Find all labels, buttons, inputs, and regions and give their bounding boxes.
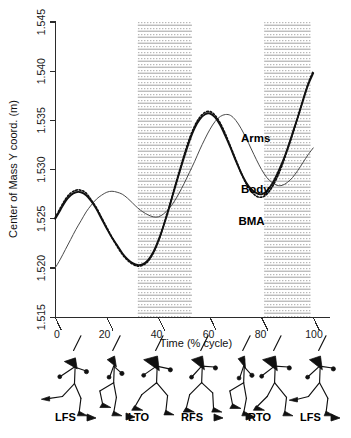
y-ticklabel-1520: 1.520 (35, 255, 47, 281)
x-ticklabel-100: 100 (305, 328, 323, 340)
y-ticks-group: 1.545 1.540 1.535 1.530 1.525 1.520 1.51… (35, 9, 55, 331)
x-ticklabel-80: 80 (255, 328, 267, 340)
y-ticklabel-1545: 1.545 (35, 9, 47, 35)
stick-figure-6 (253, 336, 293, 416)
x-ticklabel-0: 0 (54, 328, 60, 340)
stick-figure-1 (41, 336, 88, 416)
gait-event-lfs-1: LFS (55, 411, 76, 423)
y-ticklabel-1525: 1.525 (35, 206, 47, 232)
center-of-mass-chart: 1.545 1.540 1.535 1.530 1.525 1.520 1.51… (0, 0, 351, 438)
gait-event-labels-group: LFS LTO RFS RTO LFS (55, 411, 321, 423)
curve-label-bma: BMA (238, 215, 264, 227)
y-ticklabel-1540: 1.540 (35, 58, 47, 84)
stick-figure-2 (100, 336, 124, 416)
x-axis-title: Time (% cycle) (160, 337, 232, 349)
figure-container: 1.545 1.540 1.535 1.530 1.525 1.520 1.51… (0, 0, 351, 438)
x-ticklabel-20: 20 (99, 328, 111, 340)
curve-label-arms: Arms (241, 132, 270, 144)
gait-event-lfs-2: LFS (300, 411, 321, 423)
gait-event-rfs: RFS (181, 411, 203, 423)
shaded-bands-group (138, 22, 311, 317)
y-ticklabel-1530: 1.530 (35, 156, 47, 182)
shaded-band-2-dots (264, 22, 310, 317)
stick-figure-5 (230, 336, 254, 416)
y-ticklabel-1515: 1.515 (35, 304, 47, 330)
stick-figure-7 (289, 336, 335, 416)
y-axis-title: Center of Mass Y coord. (m) (7, 100, 19, 238)
y-ticklabel-1535: 1.535 (35, 107, 47, 133)
curve-label-body: Body (241, 183, 270, 195)
shaded-band-1-dots (138, 22, 192, 317)
